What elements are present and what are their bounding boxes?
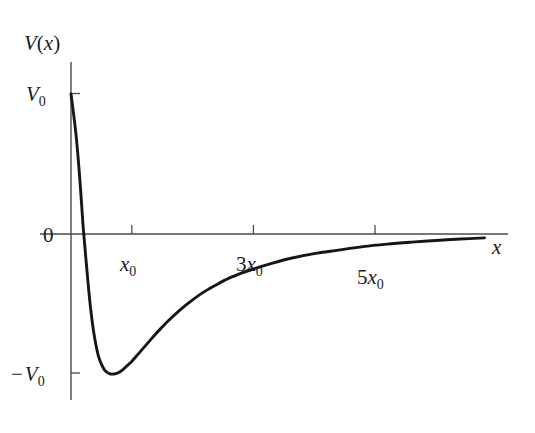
potential-energy-chart: V(x) x V0 0 −V0 x0 3x0 5x0: [0, 0, 535, 433]
chart-background: [0, 0, 535, 433]
x-axis-title: x: [491, 235, 502, 259]
y-tick-label-zero: 0: [43, 223, 54, 247]
chart-svg: V(x) x V0 0 −V0 x0 3x0 5x0: [0, 0, 535, 433]
y-axis-title: V(x): [24, 31, 60, 55]
